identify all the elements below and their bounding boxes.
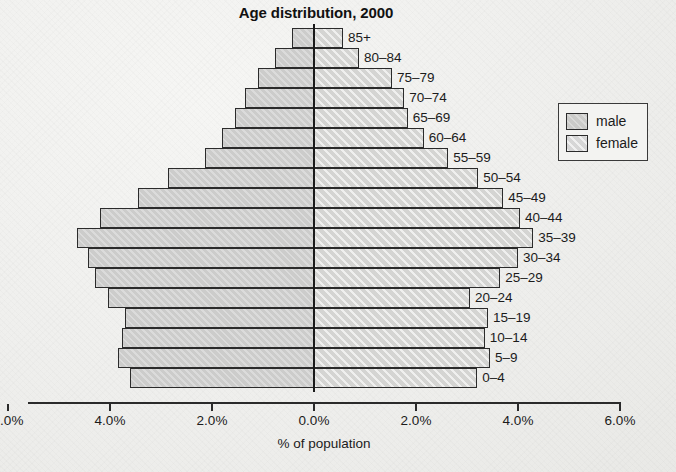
bar-male — [275, 48, 314, 68]
bar-female — [314, 168, 478, 188]
legend-label-female: female — [596, 135, 638, 151]
bar-female — [314, 348, 490, 368]
age-group-label: 80–84 — [364, 48, 402, 68]
bar-female — [314, 208, 520, 228]
bar-female — [314, 88, 404, 108]
age-group-label: 65–69 — [413, 108, 451, 128]
pyramid-row: 50–54 — [0, 168, 676, 188]
legend-swatch-male-icon — [566, 113, 588, 130]
pyramid-row: 45–49 — [0, 188, 676, 208]
age-group-label: 10–14 — [490, 328, 528, 348]
x-axis-caption: % of population — [277, 436, 370, 451]
bar-female — [314, 228, 533, 248]
bar-male — [122, 328, 314, 348]
bar-male — [118, 348, 314, 368]
bar-male — [235, 108, 314, 128]
pyramid-row: 40–44 — [0, 208, 676, 228]
bar-female — [314, 108, 408, 128]
center-axis-line — [313, 24, 315, 392]
pyramid-row: 15–19 — [0, 308, 676, 328]
bar-female — [314, 48, 359, 68]
bar-female — [314, 28, 343, 48]
bar-female — [314, 308, 488, 328]
x-axis-tick — [313, 404, 315, 411]
age-group-label: 0–4 — [482, 368, 505, 388]
legend: male female — [558, 103, 648, 161]
x-axis-line — [28, 402, 621, 404]
pyramid-row: 35–39 — [0, 228, 676, 248]
bar-male — [88, 248, 314, 268]
pyramid-row: 20–24 — [0, 288, 676, 308]
bar-female — [314, 188, 503, 208]
bar-male — [130, 368, 314, 388]
x-axis-tick-label: 0.0% — [299, 413, 330, 428]
x-axis-tick-label: 4.0% — [503, 413, 534, 428]
pyramid-row: 30–34 — [0, 248, 676, 268]
x-axis-tick-label: 6.0% — [605, 413, 636, 428]
age-group-label: 30–34 — [523, 248, 561, 268]
bar-female — [314, 328, 485, 348]
pyramid-row: 25–29 — [0, 268, 676, 288]
bar-male — [108, 288, 314, 308]
bar-female — [314, 68, 392, 88]
bar-male — [138, 188, 314, 208]
x-axis-tick — [109, 404, 111, 411]
age-group-label: 85+ — [348, 28, 371, 48]
age-group-label: 25–29 — [505, 268, 543, 288]
pyramid-row: 75–79 — [0, 68, 676, 88]
bar-male — [125, 308, 314, 328]
x-axis-tick-label: 2.0% — [401, 413, 432, 428]
age-group-label: 50–54 — [483, 168, 521, 188]
x-axis-tick-label: 2.0% — [197, 413, 228, 428]
x-axis-tick — [415, 404, 417, 411]
bar-female — [314, 268, 500, 288]
x-axis-tick-label: 6.0% — [0, 413, 23, 428]
bar-male — [245, 88, 314, 108]
pyramid-plot-area: 85+80–8475–7970–7465–6960–6455–5950–5445… — [0, 0, 676, 472]
pyramid-row: 0–4 — [0, 368, 676, 388]
age-group-label: 45–49 — [508, 188, 546, 208]
age-group-label: 40–44 — [525, 208, 563, 228]
legend-label-male: male — [596, 113, 626, 129]
x-axis-tick — [517, 404, 519, 411]
chart-canvas: Age distribution, 2000 85+80–8475–7970–7… — [0, 0, 676, 472]
age-group-label: 70–74 — [409, 88, 447, 108]
bar-female — [314, 288, 470, 308]
bar-male — [222, 128, 314, 148]
bar-male — [258, 68, 314, 88]
legend-entry-female: female — [566, 132, 638, 154]
age-group-label: 55–59 — [453, 148, 491, 168]
bar-male — [292, 28, 314, 48]
bar-male — [95, 268, 314, 288]
x-axis-tick — [619, 404, 621, 411]
age-group-label: 15–19 — [493, 308, 531, 328]
pyramid-row: 10–14 — [0, 328, 676, 348]
bar-male — [77, 228, 314, 248]
pyramid-row: 5–9 — [0, 348, 676, 368]
age-group-label: 75–79 — [397, 68, 435, 88]
x-axis-tick-label: 4.0% — [95, 413, 126, 428]
pyramid-row: 80–84 — [0, 48, 676, 68]
bar-male — [205, 148, 314, 168]
age-group-label: 5–9 — [495, 348, 518, 368]
age-group-label: 35–39 — [538, 228, 576, 248]
x-axis-tick — [211, 404, 213, 411]
bar-male — [168, 168, 314, 188]
bar-female — [314, 128, 424, 148]
legend-swatch-female-icon — [566, 135, 588, 152]
age-group-label: 20–24 — [475, 288, 513, 308]
x-axis-tick — [7, 404, 9, 411]
bar-female — [314, 148, 448, 168]
bar-female — [314, 248, 518, 268]
bar-male — [100, 208, 314, 228]
age-group-label: 60–64 — [429, 128, 467, 148]
legend-entry-male: male — [566, 110, 638, 132]
pyramid-row: 85+ — [0, 28, 676, 48]
bar-female — [314, 368, 477, 388]
